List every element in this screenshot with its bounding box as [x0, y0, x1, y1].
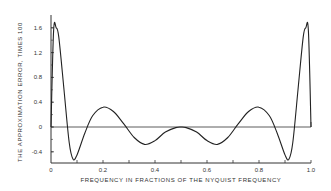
- y-tick-label: -0.4: [32, 149, 43, 155]
- y-tick-label: 0: [39, 124, 43, 130]
- x-tick-label: 0.6: [203, 167, 212, 173]
- x-tick-label: 0.4: [151, 167, 160, 173]
- x-axis-label: FREQUENCY IN FRACTIONS OF THE NYQUIST FR…: [81, 177, 282, 183]
- x-tick-label: 0.8: [255, 167, 264, 173]
- y-axis-label: THE APPROXIMATION ERROR, TIMES 100: [17, 22, 23, 162]
- x-ticks: 00.20.40.60.81.0: [49, 160, 316, 173]
- y-tick-label: 1.2: [34, 50, 43, 56]
- y-tick-label: 1.6: [34, 25, 43, 31]
- y-tick-label: 0.4: [34, 99, 43, 105]
- x-tick-label: 0.2: [99, 167, 108, 173]
- x-tick-label: 0: [49, 167, 53, 173]
- y-tick-label: 0.8: [34, 74, 43, 80]
- error-curve: [51, 22, 311, 160]
- axes: [51, 15, 311, 163]
- x-tick-label: 1.0: [307, 167, 316, 173]
- chart: 1.61.20.80.40-0.4 00.20.40.60.81.0 FREQU…: [0, 0, 331, 191]
